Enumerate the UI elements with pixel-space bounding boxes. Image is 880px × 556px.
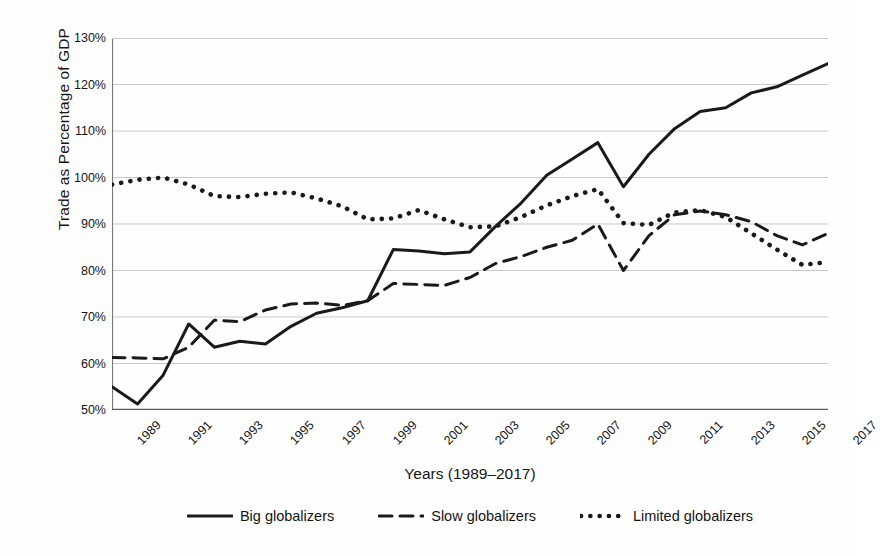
x-axis-title: Years (1989–2017) xyxy=(112,465,828,483)
y-axis-tick-labels: 50%60%70%80%90%100%110%120%130% xyxy=(56,0,106,556)
y-tick-label: 70% xyxy=(60,310,106,324)
chart-svg xyxy=(112,38,828,410)
x-axis-tick-labels: 1989199119931995199719992001200320052007… xyxy=(112,410,828,470)
x-tick-label: 2009 xyxy=(646,418,676,448)
x-tick-label: 1997 xyxy=(339,418,369,448)
y-tick-label: 90% xyxy=(60,217,106,231)
x-tick-label: 2001 xyxy=(441,418,471,448)
y-tick-label: 100% xyxy=(60,171,106,185)
x-tick-label: 1999 xyxy=(390,418,420,448)
legend-label: Slow globalizers xyxy=(431,508,536,524)
y-tick-label: 50% xyxy=(60,403,106,417)
x-tick-label: 1993 xyxy=(236,418,266,448)
y-tick-label: 60% xyxy=(60,357,106,371)
x-tick-label: 1991 xyxy=(185,418,215,448)
legend-item[interactable]: Slow globalizers xyxy=(378,508,536,524)
y-tick-label: 80% xyxy=(60,264,106,278)
chart-legend: Big globalizersSlow globalizersLimited g… xyxy=(112,508,828,524)
x-tick-label: 1995 xyxy=(288,418,318,448)
gridlines xyxy=(112,38,828,364)
legend-swatch-dotted xyxy=(580,509,626,523)
legend-label: Limited globalizers xyxy=(633,508,753,524)
x-tick-label: 2015 xyxy=(799,418,829,448)
x-tick-label: 2017 xyxy=(850,418,880,448)
legend-swatch-dashed xyxy=(378,509,424,523)
plot-area xyxy=(112,38,828,410)
legend-item[interactable]: Limited globalizers xyxy=(580,508,753,524)
x-tick-label: 2005 xyxy=(543,418,573,448)
data-series-layer xyxy=(112,64,828,404)
x-tick-label: 1989 xyxy=(134,418,164,448)
x-tick-label: 2007 xyxy=(594,418,624,448)
legend-label: Big globalizers xyxy=(240,508,334,524)
legend-item[interactable]: Big globalizers xyxy=(187,508,334,524)
legend-swatch-solid xyxy=(187,509,233,523)
series-line-0 xyxy=(112,64,828,404)
y-tick-label: 120% xyxy=(60,78,106,92)
y-tick-label: 130% xyxy=(60,31,106,45)
series-line-1 xyxy=(112,211,828,359)
x-tick-label: 2011 xyxy=(696,418,725,447)
y-tick-label: 110% xyxy=(60,124,106,138)
x-tick-label: 2003 xyxy=(492,418,522,448)
x-tick-label: 2013 xyxy=(748,418,778,448)
